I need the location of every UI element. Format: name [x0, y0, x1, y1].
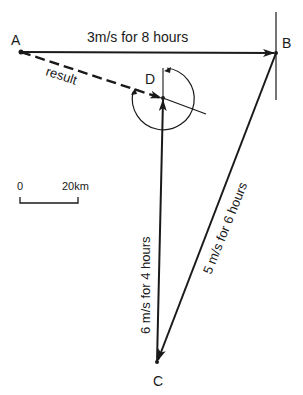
label-a: A: [11, 32, 21, 48]
label-result: result: [44, 64, 79, 88]
label-leg-a-b: 3m/s for 8 hours: [87, 29, 188, 45]
point-c: [155, 360, 159, 364]
point-a: [19, 50, 24, 55]
leg-c-d-arrow: [157, 100, 163, 362]
label-b: B: [282, 35, 291, 51]
result-arrow: [21, 52, 161, 98]
label-leg-c-d: 6 m/s for 4 hours: [138, 236, 153, 334]
label-d: D: [145, 71, 155, 87]
scale-bar-start-label: 0: [17, 180, 23, 192]
leg-a-b-arrow: [21, 52, 274, 53]
leg-b-c-arrow: [158, 53, 276, 360]
result-extension-line: [163, 98, 206, 114]
point-b: [274, 51, 278, 55]
label-leg-b-c: 5 m/s for 6 hours: [200, 180, 251, 277]
scale-bar: 0 20km: [17, 180, 89, 203]
vector-diagram: A B C D 3m/s for 8 hours 5 m/s for 6 hou…: [0, 0, 303, 395]
scale-bar-end-label: 20km: [62, 180, 89, 192]
point-d: [161, 96, 165, 100]
label-c: C: [153, 373, 163, 389]
